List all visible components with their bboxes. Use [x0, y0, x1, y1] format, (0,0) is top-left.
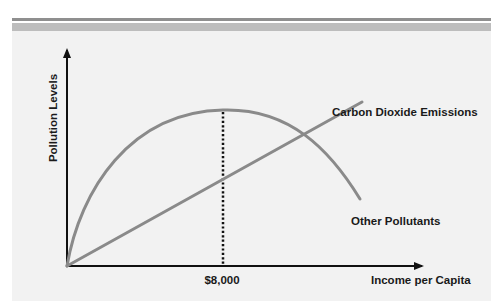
co2-label: Carbon Dioxide Emissions — [332, 106, 478, 118]
co2-line — [67, 102, 362, 266]
y-axis-label: Pollution Levels — [47, 74, 59, 162]
x-axis-label: Income per Capita — [371, 274, 471, 286]
x-tick-8000: $8,000 — [204, 274, 239, 286]
pollution-income-chart: Carbon Dioxide Emissions Other Pollutant… — [0, 0, 503, 301]
other-pollutants-label: Other Pollutants — [351, 215, 440, 227]
